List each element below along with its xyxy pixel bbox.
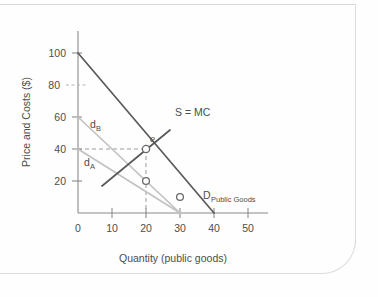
da-curve xyxy=(78,149,180,213)
x-tick-label-40: 40 xyxy=(208,222,220,234)
y-axis-ticks xyxy=(66,53,86,181)
chart-svg: 100 80 60 40 20 0 10 20 30 40 50 Price a… xyxy=(0,0,378,297)
public-goods-chart: 100 80 60 40 20 0 10 20 30 40 50 Price a… xyxy=(0,0,378,297)
y-tick-labels: 100 80 60 40 20 xyxy=(48,47,66,187)
demand-public-goods-curve xyxy=(78,53,214,213)
x-tick-label-50: 50 xyxy=(242,222,254,234)
da-curve-label-sub: A xyxy=(90,162,95,171)
x-tick-label-10: 10 xyxy=(106,222,118,234)
marker-db-point xyxy=(143,178,150,185)
x-tick-label-20: 20 xyxy=(140,222,152,234)
y-tick-label-20: 20 xyxy=(54,175,66,187)
x-tick-labels: 0 10 20 30 40 50 xyxy=(75,222,254,234)
x-tick-label-0: 0 xyxy=(75,222,81,234)
marker-da-point xyxy=(177,194,184,201)
y-tick-label-80: 80 xyxy=(48,79,60,91)
page-root: 100 80 60 40 20 0 10 20 30 40 50 Price a… xyxy=(0,0,378,297)
y-tick-label-100: 100 xyxy=(48,47,66,59)
supply-curve-label: S = MC xyxy=(175,106,211,118)
equilibrium-point-label: e xyxy=(150,134,155,144)
y-tick-label-40: 40 xyxy=(54,143,66,155)
x-tick-label-30: 30 xyxy=(174,222,186,234)
demand-curve-label-sub: Public Goods xyxy=(211,195,256,204)
db-curve-label-sub: B xyxy=(96,124,101,133)
axes xyxy=(78,31,268,213)
demand-curve-label-main: D xyxy=(203,189,211,201)
marker-equilibrium xyxy=(142,145,149,152)
y-tick-label-60: 60 xyxy=(54,111,66,123)
demand-curve-label: D Public Goods xyxy=(203,189,256,204)
aggregate-and-supply-curves xyxy=(78,53,214,213)
supply-mc-curve xyxy=(102,130,170,186)
x-axis-title: Quantity (public goods) xyxy=(119,252,227,264)
y-axis-title: Price and Costs ($) xyxy=(20,77,32,167)
